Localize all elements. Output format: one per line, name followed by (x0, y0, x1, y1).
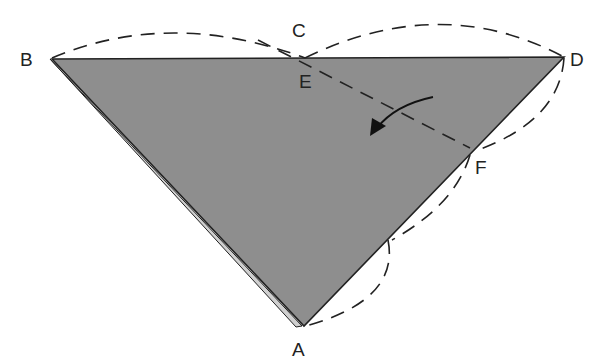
label-d: D (570, 50, 584, 69)
diagram-canvas (0, 0, 597, 363)
label-e: E (299, 72, 312, 91)
shaded-triangle-abd (52, 57, 564, 326)
label-c: C (292, 21, 306, 40)
label-f: F (475, 158, 487, 177)
label-a: A (292, 340, 305, 359)
label-b: B (20, 50, 33, 69)
origami-fold-diagram: B C D E F A (0, 0, 597, 363)
dashed-arc-c-d (305, 24, 562, 58)
